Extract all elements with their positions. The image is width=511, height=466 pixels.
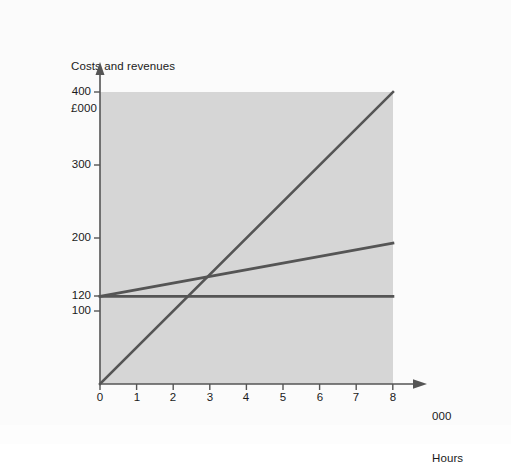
y-axis-arrowhead xyxy=(96,62,105,75)
x-axis-arrowhead xyxy=(413,379,427,388)
x-axis-title-line2: Hours xyxy=(432,451,463,465)
